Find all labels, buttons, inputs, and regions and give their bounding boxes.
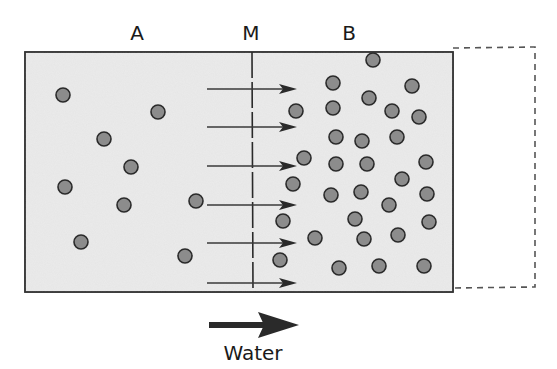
solute-particle	[420, 187, 434, 201]
solute-particle	[326, 101, 340, 115]
water-direction-arrow-icon	[209, 312, 299, 338]
solute-particle	[276, 214, 290, 228]
solute-particle	[360, 157, 374, 171]
solute-particle	[362, 91, 376, 105]
solute-particle	[355, 134, 369, 148]
label-a: A	[130, 21, 144, 45]
legend-water-label: Water	[223, 341, 283, 365]
solute-particle	[391, 228, 405, 242]
solute-particle	[366, 53, 380, 67]
solute-particle	[324, 188, 338, 202]
osmosis-diagram: A M B Water	[0, 0, 557, 369]
solute-particle	[412, 110, 426, 124]
solute-particle	[56, 88, 70, 102]
label-b: B	[342, 21, 356, 45]
solute-particle	[329, 157, 343, 171]
solute-particle	[354, 185, 368, 199]
solute-particle	[332, 261, 346, 275]
solute-particle	[385, 104, 399, 118]
label-membrane: M	[242, 21, 259, 45]
solute-particle	[117, 198, 131, 212]
solute-particle	[297, 151, 311, 165]
solute-particle	[286, 177, 300, 191]
solute-particle	[382, 198, 396, 212]
solute-particle	[58, 180, 72, 194]
solute-particle	[189, 194, 203, 208]
solute-particle	[326, 76, 340, 90]
solute-particle	[97, 132, 111, 146]
grain-texture	[25, 52, 453, 292]
solute-particle	[405, 79, 419, 93]
solute-particle	[308, 231, 322, 245]
solute-particle	[357, 232, 371, 246]
solute-particle	[348, 212, 362, 226]
solute-particle	[273, 253, 287, 267]
solute-particle	[124, 160, 138, 174]
solute-particle	[74, 235, 88, 249]
solute-particle	[390, 130, 404, 144]
solute-particle	[417, 259, 431, 273]
solute-particle	[419, 155, 433, 169]
solute-particle	[151, 105, 165, 119]
solute-particle	[329, 130, 343, 144]
solute-particle	[395, 172, 409, 186]
solute-particle	[372, 259, 386, 273]
solute-particle	[289, 104, 303, 118]
solute-particle	[422, 215, 436, 229]
expansion-outline	[453, 47, 535, 288]
solute-particle	[178, 249, 192, 263]
